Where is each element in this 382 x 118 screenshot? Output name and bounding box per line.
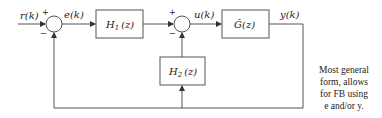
sum2-minus-sign: −: [169, 29, 176, 38]
summing-junction-1: [46, 16, 62, 32]
summing-junction-2: [174, 16, 190, 32]
note-line-3: for FB using: [308, 88, 380, 100]
note-line-4: e and/or y.: [308, 100, 380, 112]
sum1-plus-sign: +: [42, 8, 49, 17]
output-label: y(k): [279, 9, 300, 20]
sum2-plus-sign: +: [169, 8, 176, 17]
note-line-1: Most general: [308, 64, 380, 76]
note-line-2: form, allows: [308, 76, 380, 88]
sum1-minus-sign: −: [40, 29, 47, 38]
error-label: e(k): [64, 9, 84, 20]
annotation-note: Most general form, allows for FB using e…: [308, 64, 380, 112]
reference-label: r(k): [20, 10, 39, 21]
h2-block: [160, 57, 205, 85]
h1-block: [96, 10, 143, 38]
control-label: u(k): [194, 9, 214, 20]
plant-label: G̃(z): [234, 19, 255, 30]
